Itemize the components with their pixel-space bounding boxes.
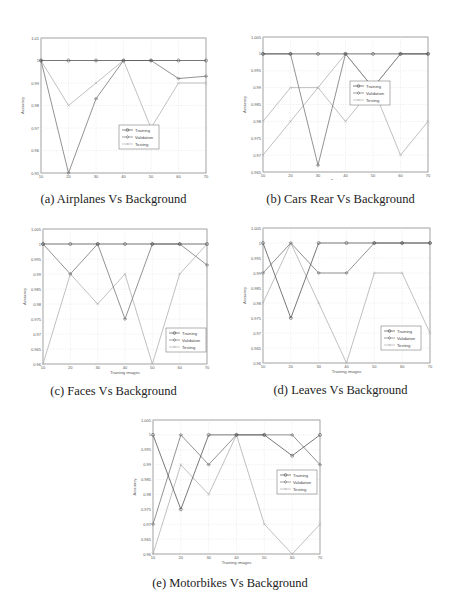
svg-text:0.99: 0.99 (253, 271, 262, 276)
svg-text:0.965: 0.965 (251, 346, 262, 351)
svg-text:Validation: Validation (293, 480, 312, 485)
svg-text:0.975: 0.975 (251, 136, 262, 141)
svg-text:Accuracy: Accuracy (242, 286, 247, 304)
svg-text:0.96: 0.96 (31, 148, 40, 153)
chart-svg: 0.960.9650.970.9750.980.9850.990.99511.0… (227, 200, 454, 375)
svg-text:70: 70 (318, 555, 323, 560)
svg-text:60: 60 (398, 173, 403, 178)
svg-text:30: 30 (316, 364, 321, 369)
svg-text:Testing: Testing (293, 487, 307, 492)
svg-text:10: 10 (39, 174, 44, 179)
svg-text:Testing: Testing (397, 343, 411, 348)
chart-legend: TrainingValidationTesting (166, 328, 206, 352)
svg-text:10: 10 (261, 364, 266, 369)
svg-text:20: 20 (68, 365, 73, 370)
svg-text:Training images: Training images (109, 179, 139, 180)
svg-text:20: 20 (179, 555, 184, 560)
svg-text:0.97: 0.97 (31, 126, 40, 131)
svg-text:Training: Training (293, 473, 309, 478)
svg-text:Training: Training (366, 84, 382, 89)
svg-text:Training images: Training images (332, 369, 362, 374)
svg-text:Accuracy: Accuracy (20, 96, 25, 114)
svg-text:0.975: 0.975 (31, 317, 42, 322)
svg-text:0.965: 0.965 (141, 537, 152, 542)
svg-text:0.995: 0.995 (31, 257, 42, 262)
svg-text:0.975: 0.975 (251, 316, 262, 321)
chart-svg: 0.960.9650.970.9750.980.9850.990.99511.0… (0, 200, 227, 375)
chart-faces: 0.960.9650.970.9750.980.9850.990.99511.0… (0, 200, 227, 375)
svg-text:70: 70 (204, 174, 209, 179)
svg-text:Accuracy: Accuracy (22, 287, 27, 305)
svg-text:1.005: 1.005 (251, 226, 262, 231)
chart-airplanes: 0.950.960.970.980.9911.0110203040506070T… (0, 0, 227, 180)
svg-text:0.995: 0.995 (141, 447, 152, 452)
svg-text:70: 70 (426, 173, 431, 178)
svg-text:0.965: 0.965 (31, 347, 42, 352)
svg-text:0.97: 0.97 (253, 331, 262, 336)
svg-text:Testing: Testing (182, 345, 196, 350)
caption-motorbikes: (e) Motorbikes Vs Background (110, 576, 350, 591)
svg-text:Testing: Testing (366, 98, 380, 103)
svg-text:0.98: 0.98 (253, 301, 262, 306)
svg-text:0.98: 0.98 (31, 103, 40, 108)
svg-text:0.985: 0.985 (141, 477, 152, 482)
svg-text:Validation: Validation (182, 338, 201, 343)
svg-text:Validation: Validation (397, 336, 416, 341)
svg-text:50: 50 (371, 173, 376, 178)
svg-text:20: 20 (289, 364, 294, 369)
svg-text:60: 60 (177, 365, 182, 370)
caption-faces: (c) Faces Vs Background (0, 384, 227, 399)
svg-text:0.97: 0.97 (253, 153, 262, 158)
svg-text:10: 10 (261, 173, 266, 178)
svg-text:10: 10 (41, 365, 46, 370)
svg-text:0.99: 0.99 (253, 85, 262, 90)
svg-text:Accuracy: Accuracy (132, 477, 137, 495)
svg-text:60: 60 (176, 174, 181, 179)
svg-text:Training: Training (182, 331, 198, 336)
svg-text:0.98: 0.98 (253, 119, 262, 124)
svg-text:0.98: 0.98 (143, 492, 152, 497)
chart-svg: 0.950.960.970.980.9911.0110203040506070T… (0, 0, 227, 180)
chart-svg: 0.960.9650.970.9750.980.9850.990.99511.0… (110, 400, 350, 570)
svg-text:50: 50 (150, 365, 155, 370)
svg-text:70: 70 (428, 364, 433, 369)
svg-text:60: 60 (400, 364, 405, 369)
chart-cars-rear: 0.9650.970.9750.980.9850.990.99511.00510… (227, 0, 454, 180)
svg-text:Validation: Validation (366, 91, 385, 96)
svg-text:50: 50 (372, 364, 377, 369)
svg-text:50: 50 (262, 555, 267, 560)
svg-text:10: 10 (151, 555, 156, 560)
svg-text:0.99: 0.99 (143, 462, 152, 467)
chart-leaves: 0.960.9650.970.9750.980.9850.990.99511.0… (227, 200, 454, 375)
svg-text:20: 20 (288, 173, 293, 178)
svg-text:0.98: 0.98 (33, 302, 42, 307)
svg-text:30: 30 (316, 173, 321, 178)
svg-text:50: 50 (149, 174, 154, 179)
svg-text:0.995: 0.995 (251, 68, 262, 73)
svg-text:0.99: 0.99 (31, 81, 40, 86)
caption-leaves: (d) Leaves Vs Background (227, 383, 454, 398)
svg-text:30: 30 (94, 174, 99, 179)
svg-text:60: 60 (290, 555, 295, 560)
chart-svg: 0.9650.970.9750.980.9850.990.99511.00510… (227, 0, 454, 180)
svg-text:0.985: 0.985 (251, 286, 262, 291)
svg-text:0.99: 0.99 (33, 272, 42, 277)
svg-text:Training images: Training images (331, 178, 361, 180)
svg-text:0.995: 0.995 (251, 256, 262, 261)
svg-text:Testing: Testing (135, 142, 149, 147)
svg-text:30: 30 (206, 555, 211, 560)
svg-text:Training: Training (397, 329, 413, 334)
svg-text:0.975: 0.975 (141, 507, 152, 512)
svg-text:Validation: Validation (135, 135, 154, 140)
svg-text:70: 70 (205, 365, 210, 370)
chart-legend: TrainingValidationTesting (350, 81, 390, 105)
chart-legend: TrainingValidationTesting (119, 125, 159, 149)
svg-text:0.97: 0.97 (33, 332, 42, 337)
svg-text:0.97: 0.97 (143, 522, 152, 527)
svg-text:0.985: 0.985 (31, 287, 42, 292)
svg-text:1.005: 1.005 (251, 35, 262, 40)
chart-legend: TrainingValidationTesting (277, 470, 317, 494)
svg-text:Accuracy: Accuracy (242, 95, 247, 113)
svg-text:30: 30 (95, 365, 100, 370)
svg-text:Training images: Training images (222, 560, 252, 565)
